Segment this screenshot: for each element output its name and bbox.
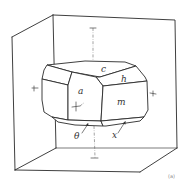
face-a [68, 72, 103, 121]
figure-mark: (a) [168, 173, 175, 179]
face-left [42, 79, 68, 120]
label-h: h [121, 74, 127, 84]
label-x: x [112, 130, 117, 140]
crystal [42, 61, 148, 126]
label-c: c [101, 64, 106, 74]
label-m: m [117, 97, 126, 107]
label-a: a [78, 86, 83, 96]
crystal-diagram: c h a m θ x (a) [0, 0, 186, 179]
label-theta: θ [74, 131, 80, 141]
